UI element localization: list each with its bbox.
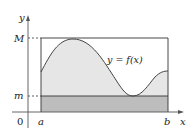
right-endpoint-label: b <box>164 116 170 127</box>
area-under-curve <box>41 39 168 96</box>
left-endpoint-label: a <box>38 116 44 127</box>
origin-label: 0 <box>17 116 23 127</box>
x-axis-label: x <box>180 116 186 127</box>
curve-label: y = f(x) <box>106 54 143 65</box>
upper-bound-label: M <box>13 33 25 44</box>
lower-bound-rectangle <box>41 96 168 112</box>
lower-bound-label: m <box>14 90 23 101</box>
function-bounds-diagram: y x 0 M m a b y = f(x) <box>0 0 194 140</box>
y-axis-arrow-icon <box>26 15 30 21</box>
x-axis-arrow-icon <box>178 110 184 114</box>
y-axis-label: y <box>18 12 25 23</box>
